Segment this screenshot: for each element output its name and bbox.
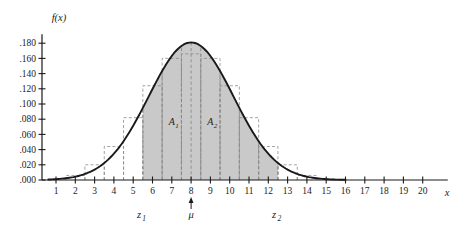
x-tick-label: 6 [150,186,155,196]
y-tick-label: .060 [19,130,36,140]
y-tick-label: .000 [19,175,36,185]
y-tick-label: .180 [19,38,36,48]
y-tick-label: .040 [19,145,36,155]
y-tick-label: .080 [19,114,36,124]
chart-canvas: .000.020.040.060.080.100.120.140.160.180… [0,0,464,235]
mean-marker-text: μ [187,209,193,220]
x-tick-label: 16 [341,186,351,196]
y-tick-label: .100 [19,99,36,109]
z-upper-text: z [271,209,276,220]
x-tick-label: 9 [208,186,213,196]
area-1-subscript: 1 [175,122,179,130]
z-lower-subscript: 1 [142,214,146,223]
x-tick-label: 18 [379,186,389,196]
x-tick-label: 4 [112,186,117,196]
y-tick-label: .020 [19,160,36,170]
area-2-subscript: 2 [214,122,218,130]
x-tick-label: 7 [169,186,174,196]
y-tick-label: .120 [19,84,36,94]
x-tick-label: 8 [189,186,194,196]
x-tick-label: 2 [73,186,78,196]
x-tick-label: 11 [244,186,253,196]
x-tick-label: 19 [399,186,409,196]
y-tick-label: .140 [19,69,36,79]
x-axis-label: x [444,187,450,198]
x-tick-label: 15 [321,186,331,196]
z-upper-subscript: 2 [277,214,281,223]
x-tick-label: 10 [225,186,235,196]
x-tick-label: 14 [302,186,312,196]
x-tick-label: 12 [264,186,274,196]
x-tick-label: 5 [131,186,136,196]
normal-distribution-figure: .000.020.040.060.080.100.120.140.160.180… [0,0,464,235]
z-lower-text: z [136,209,141,220]
x-tick-label: 17 [360,186,370,196]
x-tick-label: 1 [54,186,59,196]
x-tick-label: 13 [283,186,293,196]
x-tick-label: 20 [418,186,428,196]
y-tick-label: .160 [19,54,36,64]
y-axis-label: f(x) [52,12,67,24]
x-tick-label: 3 [92,186,97,196]
